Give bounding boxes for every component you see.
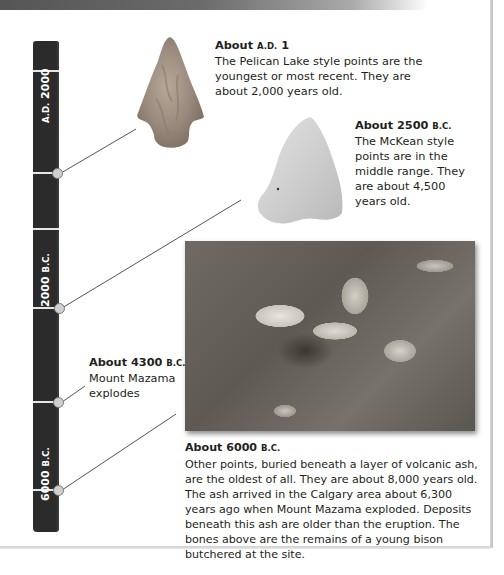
- caption-body: The Pelican Lake style points are the yo…: [215, 55, 422, 98]
- caption-heading: About A.D. 1: [215, 38, 435, 54]
- caption-heading: About 4300 B.C.: [89, 355, 189, 371]
- caption-ash-layer: About 6000 B.C. Other points, buried ben…: [185, 440, 485, 562]
- timeline-marker-mazama: [53, 397, 64, 408]
- caption-body: Other points, buried beneath a layer of …: [185, 458, 478, 561]
- caption-body: The McKean style points are in the middl…: [355, 135, 465, 208]
- caption-heading: About 6000 B.C.: [185, 440, 485, 456]
- mckean-point-image: [248, 113, 346, 225]
- bison-bones-photo: [185, 241, 475, 431]
- timeline-marker-ash: [53, 485, 64, 496]
- caption-heading: About 2500 B.C.: [355, 118, 480, 134]
- caption-pelican-lake: About A.D. 1 The Pelican Lake style poin…: [215, 38, 435, 99]
- caption-body: Mount Mazama explodes: [89, 372, 175, 400]
- caption-mckean: About 2500 B.C. The McKean style points …: [355, 118, 480, 209]
- timeline-marker-mckean: [54, 303, 65, 314]
- timeline-marker-pelican: [52, 168, 63, 179]
- caption-mazama: About 4300 B.C. Mount Mazama explodes: [89, 355, 189, 401]
- pelican-point-image: [134, 35, 206, 153]
